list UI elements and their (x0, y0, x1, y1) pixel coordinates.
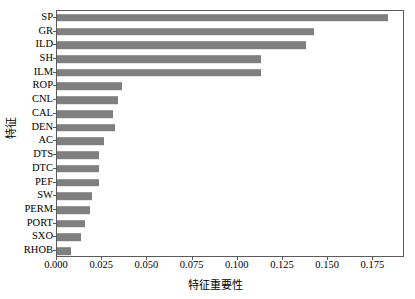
x-axis-label: 特征重要性 (0, 276, 415, 292)
y-tick-label-pef: PEF (1, 176, 53, 187)
x-tick-label-0: 0.000 (44, 259, 68, 271)
y-tick-mark (53, 195, 56, 196)
feature-importance-chart: 特征 SPGRILDSHILMROPCNLCALDENACDTSDTCPEFSW… (0, 0, 415, 299)
bar-dtc (57, 165, 99, 173)
x-tick-mark (372, 257, 373, 260)
bar-row (57, 25, 403, 39)
y-tick-mark (53, 31, 56, 32)
bar-dts (57, 151, 99, 159)
y-tick-mark (53, 58, 56, 59)
bar-pef (57, 179, 99, 187)
y-tick-label-dtc: DTC (1, 162, 53, 173)
y-tick-mark (53, 85, 56, 86)
bar-cnl (57, 96, 118, 104)
y-tick-mark (53, 99, 56, 100)
bar-row (57, 203, 403, 217)
x-tick-label-5: 0.125 (270, 259, 294, 271)
bar-gr (57, 28, 314, 36)
bar-row (57, 189, 403, 203)
y-tick-mark (53, 72, 56, 73)
bar-den (57, 124, 115, 132)
x-tick-mark (192, 257, 193, 260)
bar-ac (57, 138, 104, 146)
y-tick-label-perm: PERM (1, 203, 53, 214)
y-tick-label-ac: AC (1, 134, 53, 145)
bar-row (57, 93, 403, 107)
bar-row (57, 176, 403, 190)
x-tick-label-7: 0.175 (361, 259, 385, 271)
bar-cal (57, 110, 113, 118)
x-tick-mark (56, 257, 57, 260)
y-tick-label-ilm: ILM (1, 66, 53, 77)
bar-row (57, 162, 403, 176)
y-axis-tick-labels: SPGRILDSHILMROPCNLCALDENACDTSDTCPEFSWPER… (0, 10, 53, 257)
y-tick-mark (53, 44, 56, 45)
bar-row (57, 11, 403, 25)
y-tick-label-cal: CAL (1, 107, 53, 118)
x-tick-mark (327, 257, 328, 260)
bar-row (57, 244, 403, 257)
bar-row (57, 107, 403, 121)
bar-row (57, 217, 403, 231)
x-tick-label-3: 0.075 (180, 259, 204, 271)
bar-sp (57, 14, 388, 22)
bar-rop (57, 83, 122, 91)
bar-ild (57, 42, 306, 50)
y-tick-label-gr: GR (1, 25, 53, 36)
bar-sw (57, 192, 92, 200)
y-tick-label-ild: ILD (1, 38, 53, 49)
y-tick-mark (53, 17, 56, 18)
y-tick-mark (53, 140, 56, 141)
y-tick-mark (53, 236, 56, 237)
y-tick-label-dts: DTS (1, 148, 53, 159)
x-tick-label-2: 0.050 (135, 259, 159, 271)
bar-row (57, 80, 403, 94)
y-tick-mark (53, 250, 56, 251)
bar-ilm (57, 69, 261, 77)
x-tick-mark (282, 257, 283, 260)
x-axis-tick-labels: 0.0000.0250.0500.0750.1000.1250.1500.175 (0, 259, 415, 275)
bar-row (57, 135, 403, 149)
x-tick-label-1: 0.025 (89, 259, 113, 271)
bar-rhob (57, 247, 71, 255)
y-tick-mark (53, 113, 56, 114)
bar-row (57, 148, 403, 162)
y-tick-label-sh: SH (1, 52, 53, 63)
y-tick-mark (53, 154, 56, 155)
bar-row (57, 121, 403, 135)
bar-sxo (57, 234, 81, 242)
x-tick-label-6: 0.150 (315, 259, 339, 271)
bar-port (57, 220, 85, 228)
y-tick-label-sw: SW (1, 189, 53, 200)
bar-row (57, 52, 403, 66)
bar-row (57, 38, 403, 52)
y-tick-label-rop: ROP (1, 79, 53, 90)
x-tick-label-4: 0.100 (225, 259, 249, 271)
bar-row (57, 231, 403, 245)
bar-perm (57, 206, 90, 214)
x-tick-mark (237, 257, 238, 260)
y-tick-mark (53, 182, 56, 183)
y-tick-mark (53, 209, 56, 210)
y-tick-mark (53, 168, 56, 169)
plot-area (56, 10, 404, 257)
x-tick-mark (146, 257, 147, 260)
bar-row (57, 66, 403, 80)
y-tick-mark (53, 223, 56, 224)
x-tick-mark (101, 257, 102, 260)
y-tick-mark (53, 127, 56, 128)
y-tick-label-sxo: SXO (1, 230, 53, 241)
bar-sh (57, 55, 261, 63)
x-axis-label-text: 特征重要性 (188, 279, 243, 291)
y-tick-label-den: DEN (1, 121, 53, 132)
y-tick-label-port: PORT (1, 217, 53, 228)
y-tick-label-rhob: RHOB (1, 244, 53, 255)
y-tick-label-cnl: CNL (1, 93, 53, 104)
y-tick-label-sp: SP (1, 11, 53, 22)
